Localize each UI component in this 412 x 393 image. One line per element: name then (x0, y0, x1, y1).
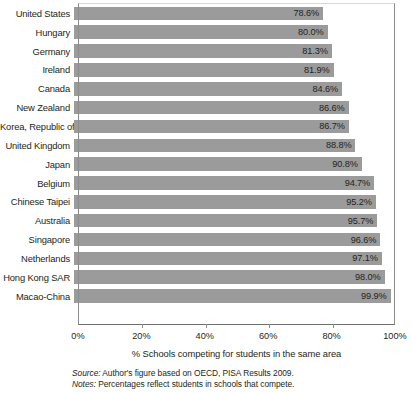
x-tick-label: 0% (71, 330, 84, 342)
bar: 88.8% (74, 139, 355, 153)
bar-value-label: 80.0% (298, 27, 324, 37)
bar-track: 90.8% (74, 155, 412, 174)
bar: 78.6% (74, 7, 323, 21)
figure-container: United States78.6%Hungary80.0%Germany81.… (0, 0, 412, 393)
bar-track: 78.6% (74, 4, 412, 23)
bar-track: 88.8% (74, 136, 412, 155)
bar: 81.3% (74, 44, 332, 58)
bar-track: 86.6% (74, 98, 412, 117)
chart-row: United Kingdom88.8% (0, 136, 412, 155)
x-axis-tick-mark (206, 324, 207, 328)
bar-track: 95.2% (74, 192, 412, 211)
x-tick-label: 80% (322, 330, 340, 342)
footnotes: Source: Author's figure based on OECD, P… (72, 368, 408, 391)
bar-track: 96.6% (74, 230, 412, 249)
chart-row: Singapore96.6% (0, 230, 412, 249)
category-label: Macao-China (0, 291, 74, 302)
category-label: Korea, Republic of (0, 121, 74, 132)
source-label: Source: (72, 368, 101, 378)
category-label: Belgium (0, 178, 74, 189)
bar: 84.6% (74, 82, 342, 96)
bar: 95.7% (74, 214, 377, 228)
bar-value-label: 97.1% (352, 253, 378, 263)
chart-row: Korea, Republic of86.7% (0, 117, 412, 136)
bar: 80.0% (74, 25, 328, 39)
chart-row: United States78.6% (0, 4, 412, 23)
x-tick-label: 20% (132, 330, 150, 342)
chart-row: Germany81.3% (0, 42, 412, 61)
bar-track: 86.7% (74, 117, 412, 136)
chart-row: New Zealand86.6% (0, 98, 412, 117)
bar-chart: United States78.6%Hungary80.0%Germany81.… (0, 0, 412, 330)
bar-track: 84.6% (74, 79, 412, 98)
x-tick-label: 40% (196, 330, 214, 342)
chart-row: Japan90.8% (0, 155, 412, 174)
chart-row: Netherlands97.1% (0, 249, 412, 268)
chart-row: Hong Kong SAR98.0% (0, 268, 412, 287)
category-label: Netherlands (0, 253, 74, 264)
bar: 86.7% (74, 120, 349, 134)
x-axis-tick-mark (142, 324, 143, 328)
bar: 86.6% (74, 101, 349, 115)
chart-row: Belgium94.7% (0, 174, 412, 193)
bar-value-label: 98.0% (355, 272, 381, 282)
bar-value-label: 86.6% (319, 103, 345, 113)
category-label: United Kingdom (0, 140, 74, 151)
category-label: United States (0, 8, 74, 19)
bar-track: 99.9% (74, 287, 412, 306)
category-label: Singapore (0, 234, 74, 245)
category-label: Chinese Taipei (0, 196, 74, 207)
notes-label: Notes: (72, 379, 96, 389)
bar: 97.1% (74, 252, 382, 266)
bar-track: 80.0% (74, 23, 412, 42)
category-label: Hungary (0, 27, 74, 38)
chart-row: Macao-China99.9% (0, 287, 412, 306)
bar: 94.7% (74, 176, 374, 190)
bar: 90.8% (74, 157, 362, 171)
chart-row: Australia95.7% (0, 211, 412, 230)
bar: 81.9% (74, 63, 334, 77)
category-label: Australia (0, 215, 74, 226)
bar-value-label: 84.6% (313, 84, 339, 94)
chart-row: Ireland81.9% (0, 61, 412, 80)
category-label: Germany (0, 46, 74, 57)
bar-value-label: 95.2% (346, 197, 372, 207)
category-label: Ireland (0, 64, 74, 75)
bar-value-label: 88.8% (326, 140, 352, 150)
notes-note: Notes: Percentages reflect students in s… (72, 379, 408, 390)
bar-value-label: 78.6% (294, 8, 320, 18)
bar: 96.6% (74, 233, 380, 247)
bar: 95.2% (74, 195, 376, 209)
category-label: Hong Kong SAR (0, 272, 74, 283)
chart-row: Chinese Taipei95.2% (0, 192, 412, 211)
x-axis-title: % Schools competing for students in the … (78, 348, 395, 360)
source-text: Author's figure based on OECD, PISA Resu… (101, 368, 294, 378)
chart-row: Canada84.6% (0, 79, 412, 98)
bar-track: 81.9% (74, 61, 412, 80)
category-label: Japan (0, 159, 74, 170)
category-label: Canada (0, 83, 74, 94)
bar-track: 95.7% (74, 211, 412, 230)
bar-value-label: 96.6% (351, 235, 377, 245)
notes-text: Percentages reflect students in schools … (96, 379, 294, 389)
bar-value-label: 90.8% (332, 159, 358, 169)
x-axis-tick-labels: 0%20%40%60%80%100% (78, 330, 395, 344)
x-axis-tick-mark (269, 324, 270, 328)
bar-value-label: 86.7% (319, 121, 345, 131)
bar-value-label: 95.7% (348, 216, 374, 226)
bar-value-label: 81.3% (302, 46, 328, 56)
x-tick-label: 100% (383, 330, 407, 342)
chart-row: Hungary80.0% (0, 23, 412, 42)
bar-value-label: 81.9% (304, 65, 330, 75)
x-axis-tick-mark (333, 324, 334, 328)
bar: 98.0% (74, 270, 385, 284)
bar-value-label: 99.9% (361, 291, 387, 301)
source-note: Source: Author's figure based on OECD, P… (72, 368, 408, 379)
bar-track: 81.3% (74, 42, 412, 61)
chart-rows: United States78.6%Hungary80.0%Germany81.… (0, 4, 412, 306)
category-label: New Zealand (0, 102, 74, 113)
bar: 99.9% (74, 289, 391, 303)
x-tick-label: 60% (259, 330, 277, 342)
bar-track: 97.1% (74, 249, 412, 268)
bar-track: 94.7% (74, 174, 412, 193)
